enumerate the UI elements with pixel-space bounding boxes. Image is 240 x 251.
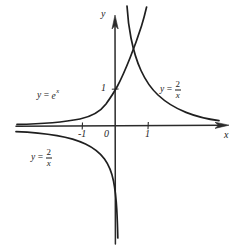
x-tick-label-one: 1 — [145, 129, 150, 139]
hyp-right-label-lhs: y — [160, 85, 164, 95]
x-axis-label: x — [224, 130, 228, 140]
hyp-right-label-fraction: 2 x — [175, 80, 182, 100]
origin-label: 0 — [104, 129, 109, 139]
exponential-curve-label: y = ex — [37, 90, 59, 102]
hyp-left-label-fraction: 2 x — [46, 148, 53, 168]
hyp-right-label-denominator: x — [175, 89, 181, 100]
hyperbola-left-label: y = 2 x — [31, 148, 52, 168]
math-graph-figure: y x -1 0 1 1 y = ex y = 2 x y = 2 x — [0, 0, 240, 251]
hyp-left-label-lhs: y — [31, 153, 35, 163]
exponential-curve — [17, 7, 147, 124]
exp-label-power: ex — [52, 90, 59, 102]
x-tick-label-negative-one: -1 — [78, 129, 86, 139]
exp-label-exponent: x — [56, 87, 59, 94]
graph-canvas — [0, 0, 240, 251]
hyp-left-label-equals: = — [37, 153, 44, 163]
hyp-right-label-numerator: 2 — [175, 80, 182, 90]
hyp-right-label-equals: = — [166, 85, 173, 95]
hyp-left-label-numerator: 2 — [46, 148, 53, 158]
exp-label-lhs: y — [37, 91, 41, 101]
exp-label-equals: = — [43, 91, 50, 101]
y-axis-label: y — [101, 9, 105, 19]
hyperbola-right-label: y = 2 x — [160, 80, 181, 100]
y-tick-label-one: 1 — [101, 83, 106, 93]
hyp-left-label-denominator: x — [46, 157, 52, 168]
hyperbola-right-branch — [127, 6, 219, 121]
